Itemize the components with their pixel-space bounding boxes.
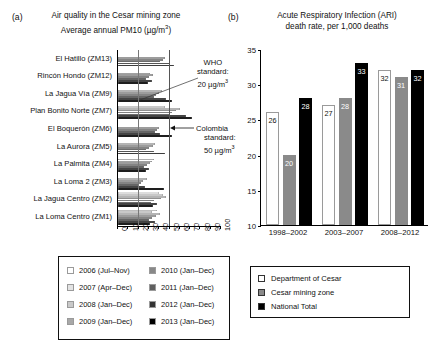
panel-b-y-tick-label: 35 <box>247 46 256 55</box>
panel-b-bar-value: 31 <box>397 81 405 90</box>
panel-a-category-label: La Jagua Vía (ZM9) <box>0 90 112 98</box>
panel-b-legend-label: National Total <box>271 302 317 311</box>
panel-b-bar: 28 <box>339 98 352 225</box>
panel-b-legend-swatch <box>258 289 265 296</box>
panel-b-legend-item: National Total <box>258 299 402 313</box>
panel-a-category-label: La Loma Centro (ZM1) <box>0 213 112 221</box>
panel-a-legend: 2006 (Jul–Nov)2007 (Apr–Dec)2008 (Jan–De… <box>58 256 230 340</box>
panel-a-category-label: El Hatillo (ZM13) <box>0 55 112 63</box>
panel-b-y-tick-label: 10 <box>247 222 256 231</box>
panel-a-category-label: El Boquerón (ZM6) <box>0 125 112 133</box>
panel-a-title: Air quality in the Cesar mining zone Ave… <box>26 11 206 36</box>
panel-b-bar-value: 20 <box>285 159 293 168</box>
panel-b-legend: Department of CesarCesar mining zoneNati… <box>250 266 410 318</box>
panel-a-letter: (a) <box>12 12 23 22</box>
panel-a-x-tick <box>199 226 200 229</box>
panel-a-legend-item: 2010 (Jan–Dec) <box>149 262 214 279</box>
panel-a-legend-swatch <box>149 318 156 325</box>
panel-a-bar <box>118 135 172 137</box>
panel-a-legend-swatch <box>149 301 156 308</box>
panel-a-x-tick <box>210 226 211 229</box>
panel-a-x-tick <box>189 226 190 229</box>
panel-b-bar-group: 323132 <box>373 49 429 225</box>
panel-a-legend-label: 2012 (Jan–Dec) <box>161 300 214 309</box>
panel-a-legend-label: 2006 (Jul–Nov) <box>79 266 130 275</box>
panel-a-bar <box>118 153 165 155</box>
panel-a-legend-column-2: 2010 (Jan–Dec)2011 (Jan–Dec)2012 (Jan–De… <box>149 262 214 330</box>
figure: (a) Air quality in the Cesar mining zone… <box>0 0 435 349</box>
panel-b-legend-item: Department of Cesar <box>258 271 402 285</box>
panel-b-title-line1: Acute Respiratory Infection (ARI) <box>242 11 432 22</box>
panel-b-bar: 20 <box>283 155 296 225</box>
panel-b-bar-value: 28 <box>301 102 309 111</box>
panel-b-bar: 31 <box>395 77 408 225</box>
panel-b: (b) Acute Respiratory Infection (ARI) de… <box>228 0 435 349</box>
panel-b-bar-value: 28 <box>341 102 349 111</box>
panel-a-legend-swatch <box>67 284 74 291</box>
panel-b-bar: 27 <box>322 105 335 225</box>
panel-a-bar <box>118 117 192 119</box>
panel-a-category-label: La Loma 2 (ZM3) <box>0 178 112 186</box>
panel-b-bar-value: 33 <box>357 67 365 76</box>
panel-b-title: Acute Respiratory Infection (ARI) death … <box>242 11 432 32</box>
panel-a-legend-swatch <box>149 284 156 291</box>
panel-a-legend-item: 2009 (Jan–Dec) <box>67 313 132 330</box>
panel-b-bar-group: 272833 <box>317 49 373 225</box>
panel-a-reference-line <box>138 50 139 226</box>
panel-b-x-label: 2008–2012 <box>372 228 428 237</box>
panel-b-x-label: 2003–2007 <box>316 228 372 237</box>
panel-a-bar <box>118 170 146 172</box>
panel-a-category-label: La Palmita (ZM4) <box>0 160 112 168</box>
panel-b-y-tick-label: 25 <box>247 116 256 125</box>
panel-b-bar: 28 <box>299 98 312 225</box>
panel-a-legend-swatch <box>149 267 156 274</box>
panel-a-legend-column-1: 2006 (Jul–Nov)2007 (Apr–Dec)2008 (Jan–De… <box>67 262 132 330</box>
panel-a-title-line1: Air quality in the Cesar mining zone <box>26 11 206 22</box>
panel-b-y-tick-label: 20 <box>247 151 256 160</box>
panel-b-bar: 26 <box>266 112 279 225</box>
panel-b-letter: (b) <box>228 12 239 22</box>
panel-a-x-tick <box>148 226 149 229</box>
panel-a-category-label: La Aurora (ZM5) <box>0 143 112 151</box>
panel-a-x-tick <box>179 226 180 229</box>
panel-b-bar-value: 27 <box>324 109 332 118</box>
panel-b-bar-value: 32 <box>413 74 421 83</box>
panel-a-x-tick <box>220 226 221 229</box>
panel-b-bar: 32 <box>411 70 424 225</box>
colombia-leader-arrow <box>170 122 200 136</box>
panel-a-x-tick <box>158 226 159 229</box>
panel-a-title-line2: Average annual PM10 (µg/m3) <box>26 22 206 36</box>
panel-a-legend-label: 2009 (Jan–Dec) <box>79 317 132 326</box>
panel-b-legend-swatch <box>258 275 265 282</box>
panel-b-legend-item: Cesar mining zone <box>258 285 402 299</box>
panel-a-legend-label: 2008 (Jan–Dec) <box>79 300 132 309</box>
panel-a-x-tick <box>169 226 170 229</box>
panel-a-legend-swatch <box>67 318 74 325</box>
panel-b-y-tick-label: 30 <box>247 81 256 90</box>
panel-b-y-tick-label: 15 <box>247 186 256 195</box>
panel-a-legend-label: 2013 (Jan–Dec) <box>161 317 214 326</box>
panel-a-legend-item: 2013 (Jan–Dec) <box>149 313 214 330</box>
panel-b-legend-label: Cesar mining zone <box>271 288 334 297</box>
panel-a-legend-swatch <box>67 267 74 274</box>
panel-a-legend-label: 2007 (Apr–Dec) <box>79 283 132 292</box>
panel-a-legend-item: 2012 (Jan–Dec) <box>149 296 214 313</box>
panel-b-bar-value: 32 <box>380 74 388 83</box>
who-leader-line <box>140 60 210 106</box>
panel-b-plot-area: 101520253035 262028272833323132 <box>260 50 428 226</box>
panel-a-bar <box>118 205 153 207</box>
panel-b-title-line2: death rate, per 1,000 deaths <box>242 22 432 33</box>
panel-b-bar: 32 <box>378 70 391 225</box>
panel-a-legend-swatch <box>67 301 74 308</box>
panel-a-bar <box>118 188 164 190</box>
panel-b-legend-swatch <box>258 303 265 310</box>
panel-a-x-tick <box>138 226 139 229</box>
panel-b-legend-items: Department of CesarCesar mining zoneNati… <box>258 271 402 313</box>
panel-a: (a) Air quality in the Cesar mining zone… <box>0 0 228 349</box>
panel-a-legend-item: 2007 (Apr–Dec) <box>67 279 132 296</box>
panel-b-bar-value: 26 <box>268 116 276 125</box>
panel-b-x-label: 1998–2002 <box>260 228 316 237</box>
panel-a-legend-item: 2011 (Jan–Dec) <box>149 279 214 296</box>
panel-a-legend-item: 2008 (Jan–Dec) <box>67 296 132 313</box>
panel-a-x-tick <box>127 226 128 229</box>
